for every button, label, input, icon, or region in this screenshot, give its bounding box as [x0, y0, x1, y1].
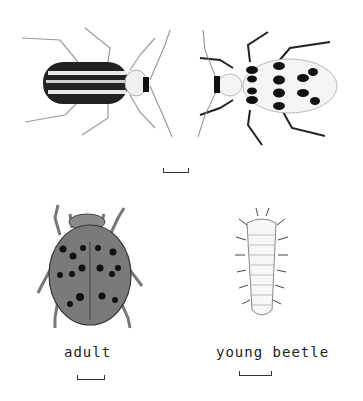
young-beetle-label: young beetle — [216, 344, 329, 360]
beetle-illustrations — [0, 0, 363, 401]
scale-bar-top — [163, 168, 189, 173]
striped-beetle-body — [43, 62, 149, 104]
scale-bar-adult — [77, 375, 105, 380]
young-beetle-larva — [235, 208, 288, 315]
spotted-beetle-antennae — [198, 30, 216, 137]
scale-bar-young — [239, 371, 272, 376]
adult-beetle-body — [49, 214, 131, 325]
adult-label: adult — [64, 344, 111, 360]
